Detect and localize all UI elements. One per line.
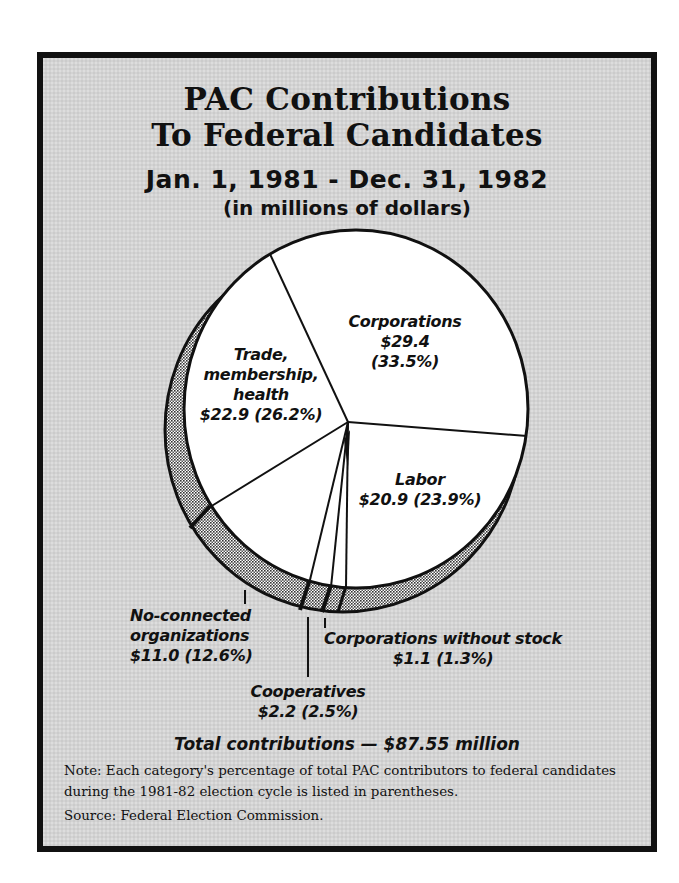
- footer-area: Total contributions — $87.55 million Not…: [37, 52, 657, 852]
- total-contributions: Total contributions — $87.55 million: [37, 734, 657, 754]
- footnote: Note: Each category's percentage of tota…: [64, 760, 624, 802]
- source-line: Source: Federal Election Commission.: [64, 808, 323, 823]
